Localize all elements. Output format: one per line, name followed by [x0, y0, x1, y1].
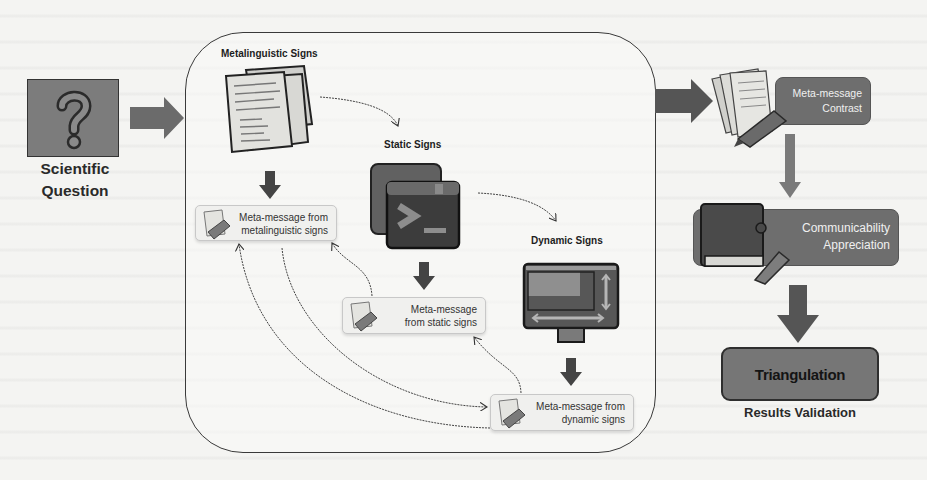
line-1: Communicability [802, 220, 890, 237]
curve-static-meta-to-metalinguistic-meta [332, 243, 372, 296]
down-arrow-icon [779, 134, 801, 198]
curve-dynamic-meta-to-metalinguistic-meta [239, 244, 490, 428]
curve-metalinguistic-to-static [320, 97, 398, 126]
results-validation-label: Results Validation [700, 405, 900, 420]
triangulation-box: Triangulation [721, 347, 879, 401]
line-2: Contrast [793, 101, 862, 116]
curve-metalinguistic-meta-to-dynamic-meta [282, 248, 487, 407]
contrast-text: Meta-message Contrast [793, 86, 862, 116]
book-pen-icon [697, 202, 789, 282]
curve-static-to-dynamic [478, 193, 556, 221]
line-2: Appreciation [802, 237, 890, 254]
communicability-text: Communicability Appreciation [802, 220, 890, 254]
line-1: Meta-message [793, 86, 862, 101]
flow-arrow-right-icon [655, 79, 713, 123]
down-arrow-icon [777, 285, 819, 343]
curve-dynamic-meta-to-static-meta [474, 337, 521, 393]
